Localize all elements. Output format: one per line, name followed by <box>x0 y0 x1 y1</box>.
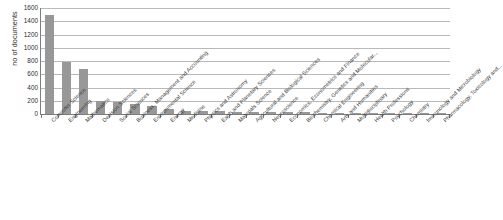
category-slot: Neuroscience <box>263 119 280 220</box>
category-slot: Health Professions <box>365 119 382 220</box>
category-slot: Economics, Econometrics and Finance <box>280 119 297 220</box>
y-axis-tick-label: 400 <box>14 84 38 90</box>
category-slot: Multidisciplinary <box>348 119 365 220</box>
y-axis-tick-label: 1200 <box>14 31 38 37</box>
category-slot: Mathematics <box>75 119 92 220</box>
bar-slot <box>41 8 58 114</box>
category-slot: Energy <box>160 119 177 220</box>
category-slot: Immunology and Microbiology <box>416 119 433 220</box>
y-axis-tick-label: 800 <box>14 58 38 64</box>
category-slot: Earth and Planetary Sciences <box>211 119 228 220</box>
y-axis-tick-label: 1400 <box>14 18 38 24</box>
category-slot: Arts and Humanities <box>331 119 348 220</box>
category-slot: Business, Management and Accounting <box>126 119 143 220</box>
y-axis-tick-label: 0 <box>14 111 38 117</box>
tick-mark <box>41 114 42 118</box>
category-slot: Medicine <box>177 119 194 220</box>
y-axis-tick-label: 600 <box>14 71 38 77</box>
category-slot: Chemistry <box>399 119 416 220</box>
category-slot: Psychology <box>382 119 399 220</box>
category-slot: Physics and Astronomy <box>194 119 211 220</box>
category-slot: Chemical Engineering <box>314 119 331 220</box>
x-axis-category-labels: Computer ScienceEngineeringMathematicsDe… <box>41 119 450 220</box>
y-axis-tick-labels: 02004006008001000120014001600 <box>14 8 38 114</box>
category-slot: Agricultural and Biological Sciences <box>246 119 263 220</box>
category-slot: Pharmacology, Toxicology and... <box>433 119 450 220</box>
category-slot: Engineering <box>58 119 75 220</box>
category-slot: Social Sciences <box>109 119 126 220</box>
category-slot: Decision Sciences <box>92 119 109 220</box>
y-axis-tick-label: 1600 <box>14 5 38 11</box>
bar-slot <box>416 8 433 114</box>
category-slot: Environmental Science <box>143 119 160 220</box>
bar <box>45 15 55 114</box>
y-axis-tick-label: 200 <box>14 98 38 104</box>
y-axis-tick-label: 1000 <box>14 45 38 51</box>
category-slot: Materials Science <box>229 119 246 220</box>
category-slot: Computer Science <box>41 119 58 220</box>
category-slot: Biochemistry, Genetics and Molecular... <box>297 119 314 220</box>
